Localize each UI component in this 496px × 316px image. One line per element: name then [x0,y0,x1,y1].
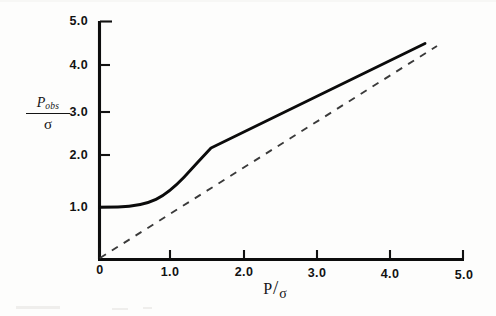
reference-line-one-to-one [100,46,437,258]
x-axis-title-denominator: σ [279,286,287,301]
y-tick-label-4: 4.0 [46,58,88,72]
y-axis-title-numerator-subscript: obs [45,101,59,111]
x-tick-label-4: 4.0 [372,267,408,281]
x-axis-title-numerator: P [263,280,272,297]
observed-polarization-curve [100,44,426,208]
y-tick-label-2: 2.0 [46,148,88,162]
x-tick-label-1: 1.0 [152,265,188,279]
y-tick-label-1: 1.0 [46,200,88,214]
y-tick-marks [100,22,112,208]
x-tick-label-0: 0 [89,263,111,277]
x-axis-title: P/σ [220,277,330,302]
y-axis-title-numerator-symbol: P [37,95,46,110]
y-axis-title: Pobs σ [18,96,78,134]
y-axis-title-denominator: σ [18,114,78,134]
figure-panel: 5.0 4.0 3.0 2.0 1.0 0 1.0 2.0 3.0 4.0 5.… [0,0,496,316]
x-tick-label-5: 5.0 [446,268,482,282]
y-axis-title-numerator: Pobs [26,96,70,114]
y-tick-label-5: 5.0 [46,14,88,28]
x-tick-marks [100,248,464,259]
